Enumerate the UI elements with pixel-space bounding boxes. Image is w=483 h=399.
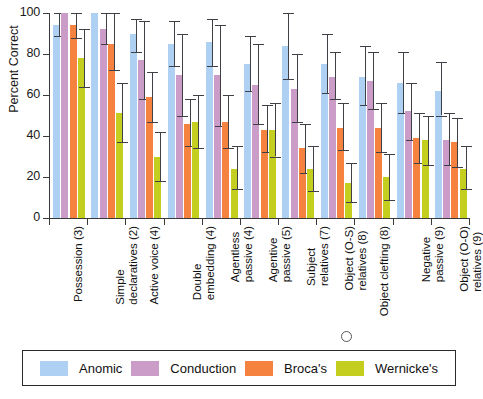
error-cap-upper xyxy=(283,13,294,14)
error-cap-upper xyxy=(79,29,90,30)
error-bar xyxy=(152,72,153,121)
error-cap-lower xyxy=(368,109,379,110)
error-cap-lower xyxy=(376,152,387,153)
error-cap-upper xyxy=(346,163,357,164)
legend-item: Anomic xyxy=(40,351,122,385)
error-bar xyxy=(106,13,107,44)
error-cap-lower xyxy=(452,167,463,168)
error-bar xyxy=(428,116,429,165)
error-cap-upper xyxy=(177,34,188,35)
x-axis-label-line: Object (O-S) xyxy=(343,226,356,291)
error-bar xyxy=(351,163,352,202)
error-cap-upper xyxy=(368,52,379,53)
bar-group xyxy=(397,13,429,218)
bar xyxy=(206,42,213,218)
error-bar xyxy=(335,52,336,99)
x-axis-label: Object clefting (8) xyxy=(378,226,391,316)
y-axis-title: Percent Correct xyxy=(7,0,21,139)
x-axis-label-line: Double xyxy=(191,226,204,300)
error-cap-upper xyxy=(452,118,463,119)
error-cap-upper xyxy=(232,146,243,147)
legend-label: Conduction xyxy=(170,361,236,376)
error-bar xyxy=(381,103,382,152)
x-axis-label-line: passive (4) xyxy=(241,226,254,282)
error-cap-lower xyxy=(283,79,294,80)
error-bar xyxy=(403,52,404,114)
error-cap-upper xyxy=(139,21,150,22)
y-tick-label-20: 20 xyxy=(0,169,40,183)
error-cap-lower xyxy=(147,122,158,123)
error-bar xyxy=(160,132,161,181)
error-bar xyxy=(327,34,328,93)
error-cap-upper xyxy=(360,46,371,47)
legend: AnomicConductionBroca'sWernicke's xyxy=(22,350,456,386)
legend-item: Conduction xyxy=(131,351,236,385)
error-bar xyxy=(198,95,199,148)
error-cap-upper xyxy=(436,62,447,63)
error-cap-upper xyxy=(308,146,319,147)
error-cap-lower xyxy=(193,148,204,149)
bar xyxy=(70,25,77,218)
y-tick-20 xyxy=(43,177,49,178)
error-bar xyxy=(144,21,145,99)
error-cap-upper xyxy=(270,103,281,104)
error-cap-upper xyxy=(193,95,204,96)
y-tick-label-80: 80 xyxy=(0,46,40,60)
x-tick xyxy=(316,219,317,225)
error-bar xyxy=(457,118,458,167)
legend-swatch xyxy=(131,361,159,376)
x-axis-label-line: Subject xyxy=(305,226,318,286)
error-bar xyxy=(466,146,467,189)
y-tick-100 xyxy=(43,13,49,14)
x-axis-label-line: Simple xyxy=(114,226,127,305)
error-cap-upper xyxy=(223,95,234,96)
error-cap-lower xyxy=(169,66,180,67)
x-axis-label-line: declaratives (2) xyxy=(127,226,140,305)
plot-area xyxy=(50,13,470,218)
error-cap-upper xyxy=(444,113,455,114)
bar-group xyxy=(206,13,238,218)
x-tick xyxy=(240,219,241,225)
bar xyxy=(61,13,68,218)
bar xyxy=(130,34,137,219)
error-cap-upper xyxy=(155,132,166,133)
error-bar xyxy=(313,146,314,191)
error-cap-upper xyxy=(253,44,264,45)
x-axis-label-line: Agentive xyxy=(267,226,280,282)
x-axis-label-line: relatives (7) xyxy=(318,226,331,286)
error-cap-lower xyxy=(338,150,349,151)
x-tick xyxy=(49,219,50,225)
y-tick-label-100: 100 xyxy=(0,5,40,19)
bar-group xyxy=(359,13,391,218)
error-cap-lower xyxy=(177,116,188,117)
error-cap-upper xyxy=(169,21,180,22)
error-bar xyxy=(449,113,450,164)
bar xyxy=(100,29,107,218)
error-cap-upper xyxy=(185,99,196,100)
error-bar xyxy=(190,99,191,146)
y-tick-80 xyxy=(43,54,49,55)
error-cap-lower xyxy=(292,122,303,123)
error-cap-lower xyxy=(207,66,218,67)
bar-group xyxy=(321,13,353,218)
error-cap-upper xyxy=(245,36,256,37)
error-bar xyxy=(441,62,442,115)
legend-label: Anomic xyxy=(79,361,122,376)
legend-swatch xyxy=(336,361,364,376)
error-cap-upper xyxy=(338,103,349,104)
error-cap-upper xyxy=(414,113,425,114)
x-axis-label-line: Object clefting (8) xyxy=(378,226,391,316)
x-axis-labels: Possession (3)Simpledeclaratives (2)Acti… xyxy=(0,226,476,322)
y-tick-40 xyxy=(43,136,49,137)
error-cap-upper xyxy=(376,103,387,104)
x-axis-label-line: embedding (4) xyxy=(203,226,216,300)
y-tick-label-60: 60 xyxy=(0,87,40,101)
error-cap-upper xyxy=(330,52,341,53)
error-cap-lower xyxy=(384,200,395,201)
error-cap-upper xyxy=(406,83,417,84)
x-axis-label-line: Object (O-O) xyxy=(458,226,471,292)
error-bar xyxy=(122,83,123,142)
error-bar xyxy=(84,29,85,86)
error-bar xyxy=(136,19,137,52)
